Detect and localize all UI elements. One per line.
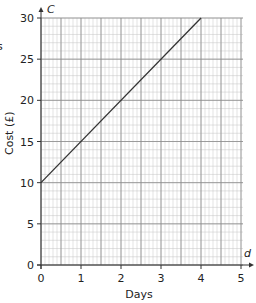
y-ticks: 051015202530 — [20, 12, 41, 272]
y-tick-label: 15 — [20, 136, 34, 149]
x-ticks: 012345 — [38, 265, 245, 285]
x-tick-label: 0 — [38, 272, 45, 285]
y-tick-label: 20 — [20, 94, 34, 107]
y-tick-label: 25 — [20, 53, 34, 66]
x-axis-label: Days — [125, 288, 153, 301]
y-tick-label: 5 — [27, 218, 34, 231]
y-axis-arrow-icon — [39, 7, 44, 12]
axes — [37, 7, 254, 269]
y-tick-label: 10 — [20, 177, 34, 190]
x-tick-label: 3 — [158, 272, 165, 285]
y-tick-label: 0 — [27, 259, 34, 272]
x-axis-arrow-icon — [249, 263, 254, 268]
cropped-text-fragment: s — [0, 40, 3, 53]
grid-major — [41, 18, 243, 265]
x-axis-variable: d — [244, 247, 252, 260]
x-tick-label: 5 — [238, 272, 245, 285]
x-tick-label: 4 — [198, 272, 205, 285]
x-tick-label: 1 — [78, 272, 85, 285]
y-tick-label: 30 — [20, 12, 34, 25]
y-axis-variable: C — [47, 3, 55, 16]
y-axis-label: Cost (£) — [3, 111, 16, 155]
chart: 012345 051015202530 d C Days Cost (£) s — [0, 0, 256, 303]
x-tick-label: 2 — [118, 272, 125, 285]
